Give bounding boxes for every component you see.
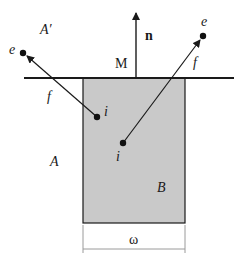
right-emission-dot: [200, 33, 206, 39]
left-flux-label: f: [47, 89, 53, 104]
region-a-prime-label: A′: [39, 22, 53, 37]
right-emission-label: e: [201, 14, 207, 29]
region-b-rect: [83, 78, 185, 223]
right-flux-label: f: [193, 55, 199, 70]
left-interior-label: i: [104, 104, 108, 119]
region-b-label: B: [157, 180, 166, 195]
region-a-label: A: [49, 154, 59, 169]
diagram-canvas: n M A′ A B ω e i f e i f: [0, 0, 247, 263]
left-emission-label: e: [9, 42, 15, 57]
width-label: ω: [129, 232, 138, 247]
point-m-label: M: [115, 56, 128, 71]
right-interior-dot: [120, 140, 126, 146]
left-interior-dot: [94, 114, 100, 120]
normal-label: n: [145, 28, 153, 43]
left-emission-dot: [20, 50, 26, 56]
right-interior-label: i: [116, 149, 120, 164]
